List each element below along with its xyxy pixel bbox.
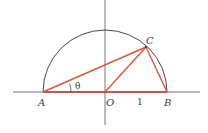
label-O: O [106, 97, 114, 108]
segment-CB [146, 47, 167, 92]
segment-OC [105, 47, 146, 92]
label-A: A [37, 97, 45, 108]
segment-AC [43, 47, 146, 92]
label-radius-1: 1 [137, 97, 143, 107]
label-B: B [163, 97, 171, 108]
label-C: C [146, 35, 154, 46]
label-theta: θ [75, 81, 80, 91]
angle-theta-arc [70, 84, 71, 92]
point-C-dot [145, 46, 147, 48]
semicircle-diagram: A O B C θ 1 [0, 0, 208, 133]
